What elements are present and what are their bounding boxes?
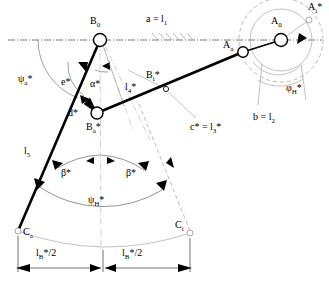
label-d-star: d*: [68, 107, 78, 118]
label-alpha-star: α*: [90, 78, 100, 89]
joint-b0[interactable]: [94, 34, 107, 47]
label-ca: Ca: [23, 226, 34, 239]
label-l5: l5: [24, 145, 31, 158]
joint-bi-star[interactable]: [163, 86, 168, 91]
beta-arrow-left-inner: [86, 157, 94, 164]
psi-a-arc: [38, 40, 78, 98]
ground-hatching-icon: [152, 33, 193, 40]
dim-arrow-left-inner: [90, 264, 101, 272]
psi-h-arrow-right: [156, 180, 167, 191]
phi-h-leader-left: [258, 64, 262, 105]
beta-arrow-right-inner: [107, 157, 115, 164]
label-b0: B0: [90, 15, 101, 28]
base-arc-ca-ci: [18, 231, 190, 247]
joint-ci[interactable]: [187, 230, 193, 236]
label-coupler-link: c* = l3*: [190, 121, 221, 134]
label-phi-h-star: φH*: [286, 82, 302, 95]
label-ground-link: a = l1: [146, 13, 168, 26]
coupler-label-leader: [168, 92, 196, 118]
kinematic-linkage-diagram: B0 Ba* Bi* A0 Aa Ai* Ca Ci a = l1 b = l2…: [0, 0, 329, 284]
joint-ca[interactable]: [15, 228, 21, 234]
label-beta-star-left: β*: [61, 167, 71, 178]
l4-construction-line-c: [104, 48, 124, 106]
joint-ai-star[interactable]: [306, 17, 312, 23]
coupler-link-c: [97, 52, 243, 113]
joint-a0[interactable]: [275, 34, 288, 47]
label-ai-star: Ai*: [308, 1, 322, 14]
label-crank-link: b = l2: [253, 111, 275, 124]
diagram-canvas: B0 Ba* Bi* A0 Aa Ai* Ca Ci a = l1 b = l2…: [0, 0, 329, 284]
dim-arrow-right-inner: [105, 264, 116, 272]
label-aa: Aa: [223, 39, 234, 52]
right-boundary-arrow: [166, 157, 174, 168]
label-bi-star: Bi*: [146, 69, 160, 82]
label-e-star: e*: [61, 76, 70, 87]
alpha-star-arc: [95, 70, 108, 72]
label-lb-half-left: lB*/2: [36, 247, 56, 260]
label-psi-a-star: ψa*: [18, 73, 32, 86]
crank-direction-arrow: [297, 33, 307, 44]
label-a0: A0: [271, 15, 282, 28]
center-vertical-axis: [100, 42, 101, 250]
label-lb-half-right: lB*/2: [122, 247, 142, 260]
label-beta-star-right: β*: [126, 167, 136, 178]
label-ba-star: Ba*: [86, 121, 101, 134]
label-ci: Ci: [175, 219, 184, 232]
label-l4-star: l4*: [125, 81, 136, 94]
alpha-star-arrow: [102, 62, 110, 70]
joint-ba-star[interactable]: [91, 107, 103, 119]
joint-aa[interactable]: [238, 47, 248, 57]
